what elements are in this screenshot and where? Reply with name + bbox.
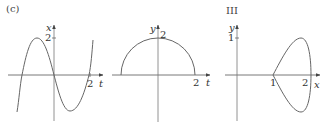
plot-y-vs-x [0, 0, 323, 127]
x-tick-label-1: 1 [270, 78, 276, 88]
x-axis-label: x [314, 80, 320, 90]
y-tick-label: 1 [228, 33, 234, 43]
x-tick-label-2: 2 [302, 78, 308, 88]
panel-y-vs-x: y 1 1 2 x [0, 0, 323, 127]
